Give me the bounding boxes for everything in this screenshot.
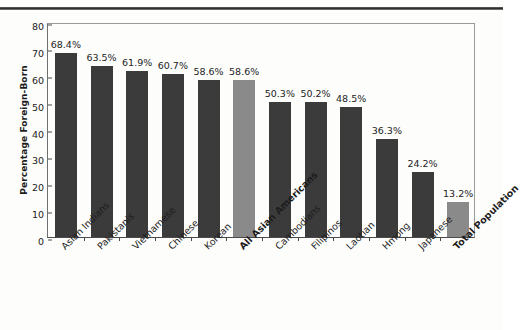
x-axis-category-label: Filipinos bbox=[309, 217, 344, 252]
x-axis-category-label: Korean bbox=[202, 221, 233, 252]
x-axis-category-label: Total Population bbox=[451, 182, 520, 251]
x-axis-category-label: Hmong bbox=[380, 220, 412, 252]
x-axis-category-label: Japanese bbox=[416, 213, 454, 251]
x-axis-category-label: Chinese bbox=[166, 217, 201, 252]
x-axis-category-label: Laotian bbox=[344, 219, 377, 252]
